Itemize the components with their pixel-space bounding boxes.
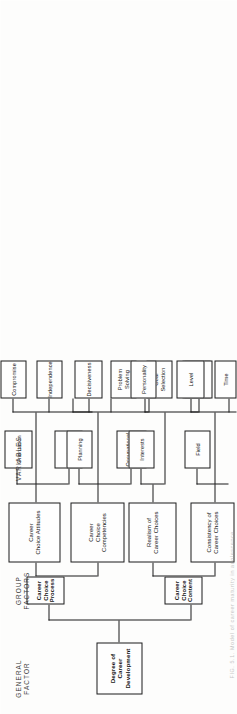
row-label-variables: VARIABLES bbox=[5, 426, 22, 490]
node-interests[interactable]: Interests bbox=[128, 430, 154, 468]
row-label-general-factor: GENERAL FACTOR bbox=[5, 650, 31, 706]
node-independence[interactable]: Independence bbox=[36, 360, 62, 398]
node-career-choice-content[interactable]: Career Choice Content bbox=[164, 576, 202, 604]
connector-realism-out bbox=[152, 484, 153, 502]
connector-root-stub bbox=[118, 620, 119, 642]
connector-attitudes-out bbox=[35, 484, 36, 502]
node-label: Field bbox=[194, 441, 201, 458]
diagram-canvas: Degree of Career Development Career Choi… bbox=[0, 0, 237, 714]
node-label: Degree of Career Development bbox=[108, 643, 130, 693]
connector-to-problem-solving bbox=[72, 398, 73, 412]
node-career-choice-competencies[interactable]: Career Choice Competencies bbox=[70, 502, 124, 562]
connector-to-compromise bbox=[12, 398, 13, 412]
row-label-group-factors: GROUP FACTORS bbox=[5, 562, 31, 618]
node-compromise[interactable]: Compromise bbox=[0, 360, 26, 398]
figure-caption-text: FIG. 5.1. Model of career maturity in ad… bbox=[228, 531, 234, 714]
node-label: Independence bbox=[46, 359, 53, 400]
connector-to-level bbox=[190, 398, 191, 412]
node-label: Career Choice Process bbox=[35, 576, 56, 604]
connector-consistency-fan bbox=[196, 483, 228, 484]
node-label: Career Choice Attitudes bbox=[27, 508, 41, 556]
figure-caption-fragment: FIG. 5.1. Model of career maturity in ad… bbox=[228, 0, 237, 714]
node-label: Consistency of Career Choices bbox=[205, 509, 219, 555]
connector-to-decisiveness bbox=[88, 398, 89, 412]
connector-to-occupational-information bbox=[130, 468, 131, 484]
node-label: Career Choice Competencies bbox=[87, 503, 108, 561]
node-label: Time bbox=[222, 371, 229, 388]
node-label: Level bbox=[187, 370, 194, 388]
connector-to-abilities bbox=[198, 398, 199, 412]
connector-to-interests bbox=[140, 468, 141, 484]
row-label-text: GROUP FACTORS bbox=[14, 571, 30, 609]
node-planning[interactable]: Planning bbox=[66, 430, 92, 468]
connector-content-to-realism bbox=[152, 562, 153, 576]
node-level[interactable]: Level bbox=[176, 360, 204, 398]
node-decisiveness[interactable]: Decisiveness bbox=[74, 360, 102, 398]
connector-spine-to-process bbox=[48, 604, 49, 620]
connector-competencies-fan bbox=[78, 483, 130, 484]
connector-realism-vars-out bbox=[164, 412, 165, 484]
connector-content-to-consistency bbox=[214, 562, 215, 576]
node-label: Realism of Career Choices bbox=[145, 509, 159, 555]
connector-consistency-out bbox=[214, 484, 215, 502]
connector-process-to-attitudes bbox=[35, 562, 36, 576]
node-career-choice-attitudes[interactable]: Career Choice Attitudes bbox=[8, 502, 60, 562]
row-label-text: VARIABLES bbox=[14, 436, 21, 481]
node-label: Interests bbox=[138, 436, 145, 462]
connector-attitudes-fan bbox=[16, 483, 68, 484]
node-label: Compromise bbox=[10, 361, 17, 398]
connector-consistency-vars-out bbox=[214, 412, 215, 484]
connector-to-planning bbox=[78, 468, 79, 484]
node-personality[interactable]: Personality bbox=[130, 360, 156, 398]
rotated-page-wrapper: Degree of Career Development Career Choi… bbox=[0, 0, 237, 714]
node-label: Decisiveness bbox=[85, 360, 92, 398]
connector-to-self-appraisal bbox=[148, 398, 149, 412]
node-label: Problem Solving bbox=[116, 366, 129, 392]
connector-attitudes-vars-out bbox=[35, 412, 36, 484]
node-label: Planning bbox=[76, 436, 83, 463]
node-label: Personality bbox=[140, 363, 147, 396]
connector-main-spine bbox=[48, 619, 190, 620]
connector-spine-to-content bbox=[190, 604, 191, 620]
row-label-text: GENERAL FACTOR bbox=[14, 659, 30, 697]
connector-to-personality bbox=[144, 398, 145, 412]
connector-realism-fan bbox=[140, 483, 164, 484]
node-degree-of-career-development[interactable]: Degree of Career Development bbox=[96, 642, 142, 694]
connector-competencies-out bbox=[97, 484, 98, 502]
connector-to-involvement bbox=[68, 468, 69, 484]
connector-competencies-vars-out bbox=[97, 412, 98, 484]
node-consistency-of-career-choices[interactable]: Consistency of Career Choices bbox=[190, 502, 234, 562]
node-career-choice-process[interactable]: Career Choice Process bbox=[26, 576, 64, 604]
connector-to-independence bbox=[48, 398, 49, 412]
connector-to-goal-selection bbox=[110, 398, 111, 412]
node-realism-of-career-choices[interactable]: Realism of Career Choices bbox=[128, 502, 176, 562]
connector-process-to-competencies bbox=[97, 562, 98, 576]
node-label: Career Choice Content bbox=[173, 577, 194, 604]
connector-to-field bbox=[196, 468, 197, 484]
node-field[interactable]: Field bbox=[184, 430, 210, 468]
